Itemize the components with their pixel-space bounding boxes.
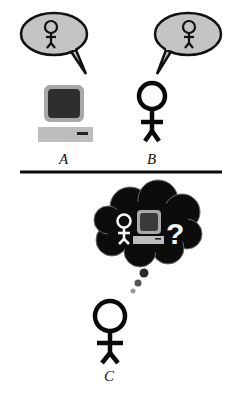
person-c-icon	[95, 301, 125, 363]
speech-bubble-a	[21, 13, 87, 74]
speech-bubble-b	[155, 13, 221, 74]
label-c: C	[104, 368, 114, 385]
label-b: B	[147, 151, 156, 168]
turing-test-diagram: ?	[0, 0, 235, 403]
person-b-icon	[139, 83, 165, 141]
thought-dots	[131, 269, 149, 294]
question-mark: ?	[166, 217, 184, 250]
label-a: A	[59, 151, 68, 168]
computer-icon	[38, 85, 93, 142]
thought-computer-icon	[133, 210, 164, 244]
